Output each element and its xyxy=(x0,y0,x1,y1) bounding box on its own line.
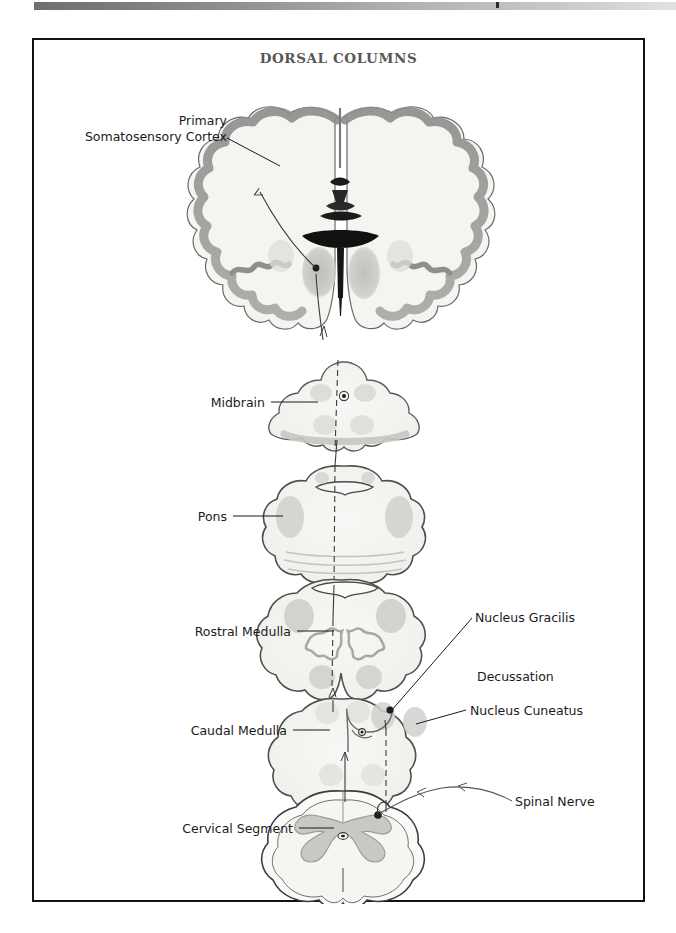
label-spinal-nerve: Spinal Nerve xyxy=(515,794,595,810)
label-nucleus-gracilis: Nucleus Gracilis xyxy=(475,610,575,626)
pons-section xyxy=(263,440,426,586)
label-midbrain: Midbrain xyxy=(139,395,265,411)
label-decussation: Decussation xyxy=(477,669,554,685)
middle-cerebellar-peduncle-left xyxy=(276,496,304,538)
cerebral-aqueduct-inner xyxy=(342,394,346,398)
dorsal-columns-diagram xyxy=(34,40,647,904)
pontine-nucleus-left xyxy=(315,472,329,484)
label-cervical-segment: Cervical Segment xyxy=(99,821,293,837)
dorsal-nucleus-left-b xyxy=(346,701,370,723)
label-caudal-medulla: Caudal Medulla xyxy=(109,723,287,739)
label-primary-somatosensory-cortex-line1: Primary xyxy=(82,113,227,129)
inferior-cerebellar-peduncle-right xyxy=(376,599,406,633)
basal-ganglia-left xyxy=(268,240,294,272)
scan-gradient-artifact xyxy=(34,2,676,10)
medullary-pyramid-right xyxy=(356,665,382,689)
central-canal-cervical-dot xyxy=(341,835,345,838)
medullary-pyramid-left xyxy=(309,665,335,689)
leader-spinal-nerve xyxy=(504,797,512,801)
middle-cerebellar-peduncle-right xyxy=(385,496,413,538)
central-canal-dot xyxy=(361,731,364,734)
superior-colliculus-left xyxy=(310,384,332,402)
scan-tick-mark xyxy=(496,2,499,8)
label-rostral-medulla: Rostral Medulla xyxy=(109,624,291,640)
caudal-pyramid-left xyxy=(319,764,343,786)
third-ventricle xyxy=(337,248,344,298)
label-nucleus-cuneatus: Nucleus Cuneatus xyxy=(470,703,583,719)
caudal-pyramid-right xyxy=(361,764,385,786)
pontine-nucleus-right xyxy=(361,472,375,484)
red-nucleus-right xyxy=(350,415,374,435)
basal-ganglia-right xyxy=(387,240,413,272)
midbrain-section xyxy=(269,360,419,451)
red-nucleus-left xyxy=(313,415,337,435)
thalamus-right xyxy=(348,247,380,299)
label-pons: Pons xyxy=(139,509,227,525)
superior-colliculus-right xyxy=(354,384,376,402)
label-primary-somatosensory-cortex-line2: Somatosensory Cortex xyxy=(82,129,227,145)
dorsal-nucleus-left-a xyxy=(315,702,339,724)
ventricle-stem xyxy=(339,298,342,316)
thalamus-left xyxy=(302,247,336,297)
label-primary-somatosensory-cortex: Primary Somatosensory Cortex xyxy=(82,113,227,146)
figure-frame: DORSAL COLUMNS xyxy=(32,38,645,902)
